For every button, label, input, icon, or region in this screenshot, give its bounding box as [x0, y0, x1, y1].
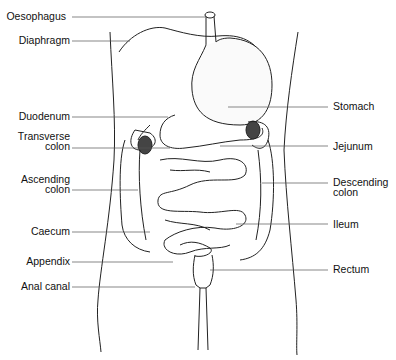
- label-ascending-colon: Ascending colon: [21, 174, 70, 194]
- label-duodenum: Duodenum: [19, 111, 70, 121]
- label-ileum: Ileum: [333, 219, 359, 229]
- label-transverse-colon-line2: colon: [18, 141, 70, 151]
- label-oesophagus: Oesophagus: [6, 11, 66, 21]
- label-anal-canal: Anal canal: [21, 281, 70, 291]
- label-caecum: Caecum: [31, 226, 70, 236]
- label-descending-colon-line2: colon: [333, 187, 388, 197]
- label-diaphragm: Diaphragm: [19, 35, 70, 45]
- label-rectum: Rectum: [333, 264, 369, 274]
- label-jejunum: Jejunum: [333, 141, 373, 151]
- label-appendix: Appendix: [26, 256, 70, 266]
- body-outline-left: [97, 32, 114, 352]
- label-stomach: Stomach: [333, 101, 374, 111]
- label-transverse-colon: Transverse colon: [18, 131, 70, 151]
- label-descending-colon: Descending colon: [333, 177, 388, 197]
- digestive-system-diagram: Oesophagus Diaphragm Duodenum Transverse…: [0, 0, 396, 360]
- stomach-outline: [192, 38, 272, 125]
- body-outline-right: [284, 32, 298, 355]
- label-ascending-colon-line2: colon: [21, 184, 70, 194]
